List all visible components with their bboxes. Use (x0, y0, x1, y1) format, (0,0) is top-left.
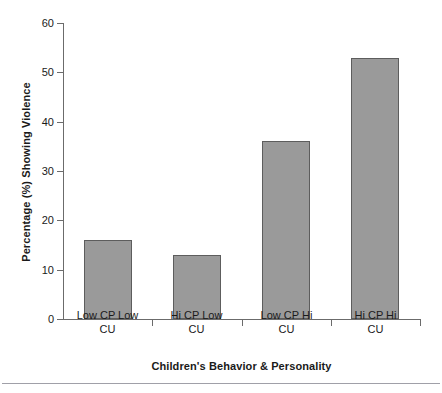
x-category-label-line: CU (63, 322, 152, 336)
y-tick-label: 20 (42, 215, 54, 226)
y-tick-mark (57, 270, 63, 271)
x-category-label-line: Low CP Low (63, 308, 152, 322)
footer-divider (2, 383, 440, 384)
y-tick-mark (57, 220, 63, 221)
x-category-label-line: Hi CP Hi (331, 308, 420, 322)
y-tick-mark (57, 23, 63, 24)
y-tick-mark (57, 171, 63, 172)
y-tick-label: 30 (42, 166, 54, 177)
x-category-label-line: Low CP Hi (242, 308, 331, 322)
x-tick-mark (420, 319, 421, 326)
x-category-label: Low CP LowCU (63, 308, 152, 336)
x-category-label-line: CU (242, 322, 331, 336)
y-tick-label: 10 (42, 264, 54, 275)
x-axis-title: Children's Behavior & Personality (63, 360, 420, 372)
x-category-label-line: CU (152, 322, 241, 336)
y-axis-line (63, 23, 64, 320)
y-tick-mark (57, 122, 63, 123)
y-tick-label: 40 (42, 116, 54, 127)
plot-area: 0102030405060 (63, 23, 420, 320)
y-axis-title: Percentage (%) Showing Violence (14, 24, 38, 320)
y-tick-mark (57, 72, 63, 73)
y-tick-label: 60 (42, 18, 54, 29)
bar-3 (262, 141, 310, 319)
x-category-label: Hi CP LowCU (152, 308, 241, 336)
y-tick-label: 0 (48, 314, 54, 325)
y-tick-label: 50 (42, 67, 54, 78)
x-category-label-line: CU (331, 322, 420, 336)
x-category-label: Hi CP HiCU (331, 308, 420, 336)
x-category-label: Low CP HiCU (242, 308, 331, 336)
bar-chart-figure: Percentage (%) Showing Violence 01020304… (0, 0, 442, 393)
x-category-label-line: Hi CP Low (152, 308, 241, 322)
bar-4 (351, 58, 399, 319)
